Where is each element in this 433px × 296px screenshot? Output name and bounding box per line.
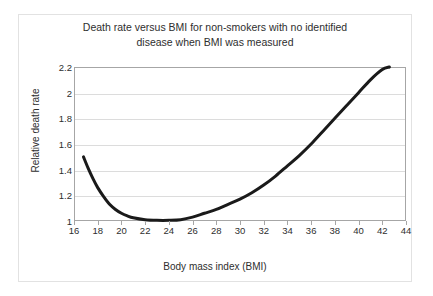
x-tick-mark — [335, 221, 336, 225]
chart-title: Death rate versus BMI for non-smokers wi… — [19, 20, 411, 50]
x-tick-mark — [240, 221, 241, 225]
y-tick-label: 1.6 — [32, 139, 72, 150]
x-tick-mark — [359, 221, 360, 225]
death-rate-curve — [74, 67, 406, 221]
x-tick-mark — [74, 221, 75, 225]
x-axis-label: Body mass index (BMI) — [19, 261, 411, 272]
y-tick-label: 1.8 — [32, 113, 72, 124]
y-tick-label: 1.2 — [32, 190, 72, 201]
x-tick-mark — [406, 221, 407, 225]
x-tick-mark — [311, 221, 312, 225]
chart-figure: Death rate versus BMI for non-smokers wi… — [18, 14, 412, 282]
x-tick-mark — [169, 221, 170, 225]
x-tick-label: 44 — [391, 225, 421, 236]
x-tick-mark — [98, 221, 99, 225]
x-tick-mark — [193, 221, 194, 225]
x-tick-mark — [145, 221, 146, 225]
y-tick-label: 2 — [32, 87, 72, 98]
x-tick-mark — [264, 221, 265, 225]
x-tick-mark — [216, 221, 217, 225]
y-tick-label: 1.4 — [32, 164, 72, 175]
x-tick-mark — [382, 221, 383, 225]
x-tick-mark — [287, 221, 288, 225]
x-tick-mark — [121, 221, 122, 225]
y-tick-label: 2.2 — [32, 62, 72, 73]
